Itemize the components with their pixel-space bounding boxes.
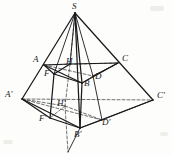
- label-A: A: [33, 55, 39, 64]
- edge-Dp-Bp: [80, 120, 102, 128]
- label-Cp: C': [157, 91, 165, 100]
- label-B: B: [84, 79, 90, 88]
- edge-B-Bp-vert: [80, 83, 82, 128]
- label-Fp: F': [39, 114, 46, 123]
- label-Dp: D': [102, 118, 110, 127]
- label-Ap: A': [5, 90, 12, 99]
- dash-Ap-Cp: [22, 99, 153, 100]
- edge-D-Dp-vert: [93, 76, 102, 120]
- dash-Hp-T-axis: [65, 106, 68, 152]
- label-S: S: [72, 2, 77, 11]
- label-C: C: [122, 54, 128, 63]
- label-Hp: H': [57, 99, 65, 108]
- label-Bp: B': [74, 130, 81, 139]
- edge-F-Fp-vert: [50, 74, 54, 118]
- label-H: H: [66, 57, 73, 66]
- edge-Fp-Bp: [50, 118, 80, 128]
- label-F: F: [44, 69, 50, 78]
- geometry-figure: SACHFDBA'C'H'F'D'B': [0, 0, 172, 155]
- dash-Hp-Dp: [65, 106, 102, 120]
- label-D: D: [95, 72, 102, 81]
